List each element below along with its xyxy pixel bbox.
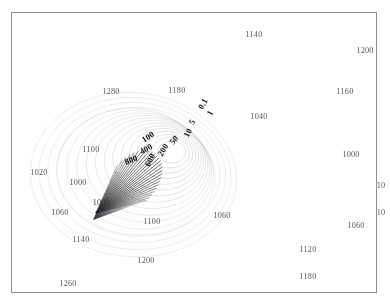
- grid-annotation-label: 1200: [356, 47, 373, 55]
- grid-annotation-label: 1140: [246, 31, 263, 39]
- grid-annotation-label: 1000: [69, 179, 86, 187]
- grid-annotation-label: 1160: [337, 88, 354, 96]
- grid-annotation-label: 1200: [137, 257, 154, 265]
- grid-annotation-label: 1100: [144, 218, 161, 226]
- grid-annotation-label: 1020: [30, 169, 47, 177]
- grid-annotation-label: 1060: [347, 222, 364, 230]
- grid-annotation-label: 1100: [83, 146, 100, 154]
- grid-annotation-label: 1260: [59, 280, 76, 288]
- grid-annotation-label: 1040: [250, 113, 267, 121]
- grid-annotation-label: 10: [377, 182, 386, 190]
- grid-annotation-label: 1180: [300, 273, 317, 281]
- grid-annotation-label: 1060: [51, 209, 68, 217]
- ray-fan-apex-label: 1000: [93, 199, 109, 207]
- grid-annotation-label: 1180: [169, 87, 186, 95]
- grid-annotation-label: 1140: [73, 236, 90, 244]
- grid-annotation-label: 1060: [213, 212, 230, 220]
- grid-annotation-label: 1000: [342, 151, 359, 159]
- grid-annotation-label: 1280: [102, 88, 119, 96]
- grid-annotation-label: 1120: [300, 246, 317, 254]
- grid-annotation-label: 10: [377, 209, 386, 217]
- plot-frame-border: [11, 12, 377, 293]
- contour-plot-figure: 1140120012801180116010401100100010201000…: [0, 0, 390, 307]
